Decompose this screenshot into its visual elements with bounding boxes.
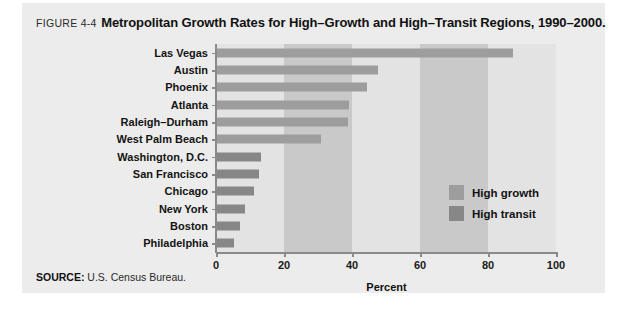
y-axis-tick-label: Boston <box>24 220 208 232</box>
bar-chart: Las VegasAustinPhoenixAtlantaRaleigh–Dur… <box>22 37 605 293</box>
x-axis-tick <box>352 252 354 257</box>
figure-caption: FIGURE 4-4 Metropolitan Growth Rates for… <box>36 13 606 31</box>
bar <box>216 135 321 144</box>
bar <box>216 170 259 179</box>
figure-number: FIGURE 4-4 <box>36 17 97 29</box>
x-axis-tick <box>488 252 490 257</box>
x-axis-tick-label: 0 <box>213 259 219 271</box>
plot-band <box>284 44 352 252</box>
y-axis-tick-label: Chicago <box>24 185 208 197</box>
y-axis-tick-label: New York <box>24 203 208 215</box>
bar <box>216 204 245 213</box>
y-axis-tick-label: Las Vegas <box>24 47 208 59</box>
y-axis-tick-label: Phoenix <box>24 81 208 93</box>
x-axis-tick <box>556 252 558 257</box>
y-axis-tick-label: San Francisco <box>24 168 208 180</box>
y-axis-tick-label: West Palm Beach <box>24 133 208 145</box>
source-text: U.S. Census Bureau. <box>84 271 186 283</box>
bar <box>216 66 378 75</box>
bar <box>216 48 513 57</box>
source-label: SOURCE: <box>36 271 84 283</box>
x-axis-tick <box>216 252 218 257</box>
source-note: SOURCE: U.S. Census Bureau. <box>36 271 186 283</box>
bar <box>216 118 348 127</box>
x-axis-tick-label: 40 <box>346 259 358 271</box>
y-axis-line <box>215 44 217 253</box>
bar <box>216 239 234 248</box>
bar <box>216 83 367 92</box>
legend-swatch-high-transit <box>449 206 464 221</box>
legend-label-high-growth: High growth <box>472 187 539 199</box>
bar <box>216 152 261 161</box>
page-title: Metropolitan Growth Rates for High–Growt… <box>101 15 605 30</box>
y-axis-tick-label: Philadelphia <box>24 237 208 249</box>
y-axis-tick-label: Raleigh–Durham <box>24 116 208 128</box>
y-axis-tick-label: Austin <box>24 64 208 76</box>
x-axis-tick <box>284 252 286 257</box>
legend-swatch-high-growth <box>449 185 464 200</box>
bar <box>216 222 240 231</box>
y-axis-tick-label: Atlanta <box>24 99 208 111</box>
x-axis-tick-label: 60 <box>414 259 426 271</box>
legend-item-high-growth: High growth <box>449 185 539 200</box>
x-axis-tick <box>420 252 422 257</box>
y-axis-tick-label: Washington, D.C. <box>24 151 208 163</box>
legend-label-high-transit: High transit <box>472 208 536 220</box>
x-axis-line <box>216 252 557 254</box>
x-axis-label: Percent <box>216 281 557 293</box>
x-axis-tick-label: 100 <box>547 259 565 271</box>
x-axis-tick-label: 20 <box>278 259 290 271</box>
legend-item-high-transit: High transit <box>449 206 539 221</box>
x-axis-tick-label: 80 <box>482 259 494 271</box>
bar <box>216 100 349 109</box>
chart-legend: High growth High transit <box>449 185 539 227</box>
figure-panel: FIGURE 4-4 Metropolitan Growth Rates for… <box>22 3 605 293</box>
bar <box>216 187 254 196</box>
